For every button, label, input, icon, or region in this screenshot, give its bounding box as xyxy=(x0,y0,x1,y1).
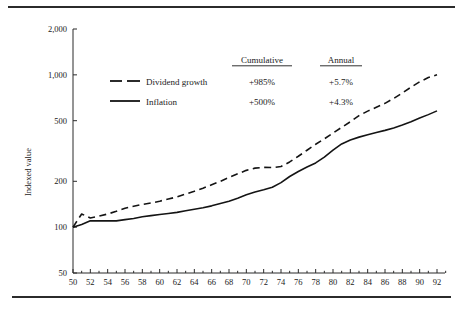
x-tick-label-80: 80 xyxy=(329,277,338,287)
x-tick-label-70: 70 xyxy=(242,277,251,287)
annotation-annual-dividend-growth: +5.7% xyxy=(329,77,353,87)
x-tick-label-88: 88 xyxy=(398,277,407,287)
annotation-table: Cumulative Annual +985% +5.7% +500% +4.3… xyxy=(232,55,362,107)
y-tick-label-group: 501002005001,0002,000 xyxy=(48,24,67,278)
series-line-inflation xyxy=(73,111,437,227)
y-axis-title: Indexed value xyxy=(23,148,33,196)
x-tick-label-72: 72 xyxy=(259,277,268,287)
chart-figure: 501002005001,0002,000 Indexed value 5052… xyxy=(0,0,463,309)
x-tick-label-54: 54 xyxy=(103,277,112,287)
x-tick-label-60: 60 xyxy=(155,277,164,287)
x-tick-label-56: 56 xyxy=(121,277,130,287)
x-tick-label-86: 86 xyxy=(381,277,390,287)
y-tick-label-100: 100 xyxy=(54,222,67,232)
annotation-annual-inflation: +4.3% xyxy=(329,97,353,107)
x-tick-label-52: 52 xyxy=(86,277,95,287)
legend-label-dividend-growth: Dividend growth xyxy=(146,77,208,87)
line-chart-plot: 501002005001,0002,000 Indexed value 5052… xyxy=(0,0,463,309)
legend-label-inflation: Inflation xyxy=(146,97,177,107)
x-tick-label-76: 76 xyxy=(294,277,303,287)
annotation-header-cumulative: Cumulative xyxy=(241,55,283,65)
x-tick-label-group: 5052545658606264666870727476788082848688… xyxy=(69,277,442,287)
y-tick-label-2000: 2,000 xyxy=(48,24,67,34)
legend-item-inflation: Inflation xyxy=(110,97,177,107)
x-tick-label-92: 92 xyxy=(433,277,442,287)
y-axis: 501002005001,0002,000 Indexed value xyxy=(23,24,77,278)
x-axis: 5052545658606264666870727476788082848688… xyxy=(69,269,446,287)
x-tick-label-62: 62 xyxy=(173,277,182,287)
x-tick-label-66: 66 xyxy=(207,277,216,287)
x-tick-label-84: 84 xyxy=(363,277,372,287)
x-tick-label-74: 74 xyxy=(277,277,286,287)
x-tick-label-64: 64 xyxy=(190,277,199,287)
annotation-cumulative-dividend-growth: +985% xyxy=(249,77,276,87)
y-tick-label-1000: 1,000 xyxy=(48,70,67,80)
chart-legend: Dividend growth Inflation xyxy=(110,77,208,107)
x-tick-label-68: 68 xyxy=(225,277,234,287)
x-tick-label-82: 82 xyxy=(346,277,355,287)
x-tick-label-78: 78 xyxy=(311,277,320,287)
annotation-header-annual: Annual xyxy=(328,55,355,65)
annotation-cumulative-inflation: +500% xyxy=(249,97,276,107)
y-tick-label-200: 200 xyxy=(54,176,67,186)
x-tick-label-58: 58 xyxy=(138,277,147,287)
y-tick-label-50: 50 xyxy=(59,268,68,278)
legend-item-dividend-growth: Dividend growth xyxy=(110,77,208,87)
y-tick-group xyxy=(73,29,77,273)
x-tick-label-90: 90 xyxy=(415,277,424,287)
y-tick-label-500: 500 xyxy=(54,116,67,126)
x-tick-label-50: 50 xyxy=(69,277,78,287)
